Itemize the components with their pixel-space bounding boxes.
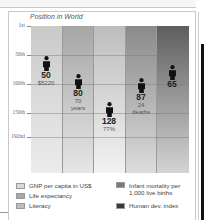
y-axis-label: 192nd xyxy=(2,133,25,139)
column-human-dev-index xyxy=(157,26,189,173)
person-icon xyxy=(137,78,146,93)
legend-label-human-dev-index: Human dev. index xyxy=(129,202,178,209)
rank-value: 87 xyxy=(126,93,156,102)
chart-title: Position in World xyxy=(30,13,83,20)
divider-line xyxy=(198,12,199,220)
rank-value: 80 xyxy=(63,89,93,98)
plot-area xyxy=(31,26,189,173)
column-gnp xyxy=(31,26,63,173)
legend-label-line2: 1,000 live births xyxy=(129,189,180,196)
legend-swatch-literacy xyxy=(16,203,25,209)
metric-value: 77% xyxy=(94,126,124,133)
y-axis-label: 50th xyxy=(2,51,25,57)
y-axis-label: 1st xyxy=(2,22,25,28)
top-strip xyxy=(0,0,196,8)
rank-marker: 128 77% xyxy=(94,102,124,133)
legend-swatch-human-dev-index xyxy=(116,203,125,209)
metric-value: $5220 xyxy=(31,80,61,87)
rank-value: 50 xyxy=(31,71,61,80)
legend-label-infant-mortality: Infant mortality per 1,000 live births xyxy=(129,182,180,196)
metric-unit: years xyxy=(63,105,93,112)
person-icon xyxy=(168,65,177,80)
rank-value: 65 xyxy=(157,80,187,89)
metric-unit: deaths xyxy=(126,109,156,116)
person-icon xyxy=(105,102,114,117)
legend-label-literacy: Literacy xyxy=(29,202,51,209)
page-edge-bar xyxy=(201,44,204,220)
legend-label-life-expectancy: Life expectancy xyxy=(29,192,72,199)
legend-swatch-life-expectancy xyxy=(16,193,25,199)
legend-swatch-infant-mortality xyxy=(116,182,125,188)
legend-label-line1: Infant mortality per xyxy=(129,182,180,189)
column-literacy xyxy=(94,26,126,173)
legend-label-gnp: GNP per capita in US$ xyxy=(29,182,91,189)
gridline xyxy=(31,137,189,138)
person-icon xyxy=(74,74,83,89)
rank-value: 128 xyxy=(94,117,124,126)
rank-marker: 65 xyxy=(157,65,187,89)
rank-marker: 50 $5220 xyxy=(31,56,61,87)
rank-marker: 80 70 years xyxy=(63,74,93,111)
person-icon xyxy=(42,56,51,71)
legend-swatch-gnp xyxy=(16,183,25,189)
rank-marker: 87 24 deaths xyxy=(126,78,156,115)
y-axis-label: 100th xyxy=(2,80,25,86)
y-axis-label: 150th xyxy=(2,109,25,115)
